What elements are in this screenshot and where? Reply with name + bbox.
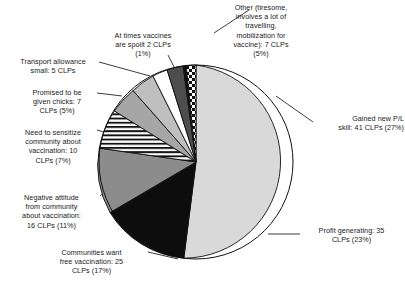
slice-label-need-to-sensitize: Need to sensitize community about vaccin…	[6, 128, 100, 165]
slice-label-communities-want-free-vaccination: Communities want free vaccination: 25 CL…	[42, 248, 141, 276]
slice-label-negative-attitude: Negative attitude from community about v…	[3, 193, 100, 230]
leader-line-transport	[99, 62, 150, 76]
slice-label-gained-new-pl-skill: Gained new P/L skill: 41 CLPs (27%)	[316, 114, 404, 132]
slice-label-profit-generating: Profit generating: 35 CLPs (23%)	[300, 226, 403, 244]
leader-line-gained	[276, 96, 313, 122]
slice-label-other: Other (tiresome, involves a lot of trave…	[219, 3, 303, 58]
pie-chart-figure: Other (tiresome, involves a lot of trave…	[0, 0, 405, 284]
pie-slices	[98, 65, 293, 259]
slice-label-promised-chicks: Promised to be given chicks: 7 CLPs (5%)	[14, 88, 100, 116]
slice-label-transport-allowance: Transport allowance small: 5 CLPs	[5, 57, 101, 75]
leader-line-chicks	[97, 93, 122, 96]
slice-label-vaccines-spoilt: At times vaccines are spoilt 2 CLPs (1%)	[96, 31, 190, 59]
